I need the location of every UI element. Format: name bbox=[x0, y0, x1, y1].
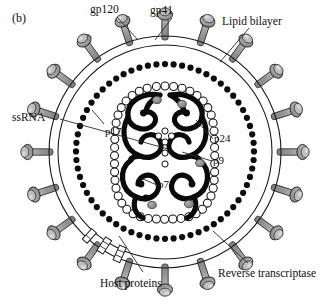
envelope-spike bbox=[225, 31, 256, 66]
virion-body bbox=[21, 8, 309, 296]
label-lipid-bilayer: Lipid bilayer bbox=[222, 16, 282, 28]
label-gp120: gp120 bbox=[90, 4, 119, 16]
envelope-spike bbox=[74, 31, 105, 66]
label-p7: p7 bbox=[158, 179, 169, 190]
label-reverse-transcriptase: Reverse transcriptase bbox=[218, 268, 316, 280]
nucleocapsid-p7-dot bbox=[183, 110, 190, 117]
envelope-spike bbox=[44, 212, 79, 243]
leader-reverse-transcriptase bbox=[213, 231, 248, 263]
envelope-spike bbox=[251, 212, 286, 243]
reverse-transcriptase bbox=[185, 200, 194, 208]
nucleocapsid-p7-dot bbox=[143, 195, 150, 202]
label-p17: p17 bbox=[105, 126, 122, 137]
label-ssrna: ssRNA bbox=[12, 112, 45, 124]
leader-p17 bbox=[92, 110, 104, 124]
panel-label: (b) bbox=[12, 12, 26, 24]
reverse-transcriptase bbox=[196, 159, 205, 166]
envelope-spike bbox=[74, 238, 105, 273]
reverse-transcriptase bbox=[153, 96, 162, 103]
label-p24: p24 bbox=[214, 133, 231, 144]
reverse-transcriptase bbox=[148, 201, 157, 208]
nucleocapsid-p7-dot bbox=[140, 110, 147, 117]
envelope-spike bbox=[277, 144, 309, 159]
rna-core-detail bbox=[155, 128, 174, 167]
label-host-proteins: Host proteins bbox=[100, 278, 162, 290]
hiv-virion-diagram: (b) gp120 gp41 Lipid bilayer ssRNA p17 p… bbox=[0, 0, 330, 304]
envelope-spike bbox=[251, 61, 286, 92]
label-gp41: gp41 bbox=[150, 5, 173, 17]
envelope-spike bbox=[21, 144, 53, 159]
virion-illustration bbox=[0, 0, 330, 304]
nucleocapsid-p7-dot bbox=[189, 181, 196, 188]
envelope-spike bbox=[44, 61, 79, 92]
label-p9: p9 bbox=[213, 155, 224, 166]
host-protein bbox=[82, 229, 96, 244]
reverse-transcriptase bbox=[178, 100, 187, 107]
host-protein bbox=[113, 245, 126, 263]
nucleocapsid-p7-dot bbox=[138, 181, 145, 188]
